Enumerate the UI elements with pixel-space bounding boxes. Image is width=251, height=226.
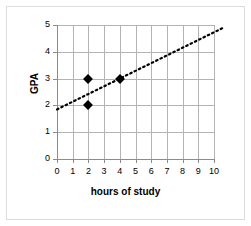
y-tick (53, 25, 57, 26)
x-tick (136, 159, 137, 163)
gridline-horizontal (57, 79, 214, 80)
x-tick (57, 159, 58, 163)
x-tick-label: 3 (96, 166, 112, 177)
y-tick (53, 105, 57, 106)
data-point-marker (83, 74, 93, 84)
y-tick-label: 1 (36, 127, 50, 136)
x-tick (151, 159, 152, 163)
x-tick (88, 159, 89, 163)
x-tick-label: 8 (175, 166, 191, 177)
data-point-marker (115, 74, 125, 84)
y-axis-label: GPA (29, 64, 40, 104)
gridline-horizontal (57, 25, 214, 26)
y-tick (53, 159, 57, 160)
x-tick (167, 159, 168, 163)
gridline-horizontal (57, 52, 214, 53)
gridline-vertical (151, 25, 152, 159)
x-tick (183, 159, 184, 163)
x-tick-label: 10 (206, 166, 222, 177)
x-tick-label: 1 (65, 166, 81, 177)
x-tick-label: 2 (80, 166, 96, 177)
x-tick-label: 9 (190, 166, 206, 177)
y-tick-label: 4 (36, 47, 50, 56)
x-tick (73, 159, 74, 163)
gridline-vertical (198, 25, 199, 159)
gridline-vertical (120, 25, 121, 159)
x-tick (198, 159, 199, 163)
gridline-vertical (214, 25, 215, 159)
scatter-chart-figure: 012345678910 012345 hours of study GPA (0, 0, 251, 226)
x-tick (104, 159, 105, 163)
y-axis-line (57, 25, 58, 160)
y-tick (53, 52, 57, 53)
y-tick (53, 132, 57, 133)
data-point-marker (83, 100, 93, 110)
gridline-vertical (73, 25, 74, 159)
y-tick-label: 5 (36, 20, 50, 29)
gridline-vertical (167, 25, 168, 159)
gridline-vertical (183, 25, 184, 159)
gridline-vertical (88, 25, 89, 159)
gridline-vertical (136, 25, 137, 159)
x-tick (120, 159, 121, 163)
gridline-horizontal (57, 132, 214, 133)
y-tick (53, 79, 57, 80)
plot-area (57, 25, 214, 159)
y-tick-label: 0 (36, 154, 50, 163)
gridline-horizontal (57, 105, 214, 106)
x-tick-label: 0 (49, 166, 65, 177)
x-tick-label: 7 (159, 166, 175, 177)
x-tick-label: 5 (128, 166, 144, 177)
x-axis-label: hours of study (0, 186, 251, 197)
x-tick (214, 159, 215, 163)
x-tick-label: 4 (112, 166, 128, 177)
gridline-vertical (104, 25, 105, 159)
x-tick-label: 6 (143, 166, 159, 177)
